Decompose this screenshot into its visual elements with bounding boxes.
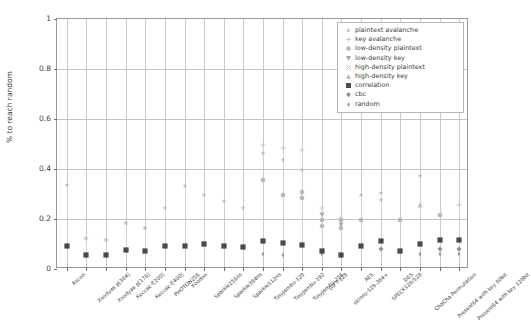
data-stem [204, 195, 205, 244]
legend-label: key avalanche [355, 35, 401, 44]
legend-item[interactable]: low-density key [341, 54, 458, 63]
y-tick-label: 1 [46, 14, 51, 23]
y-gridline [57, 119, 467, 120]
plot-area: plaintext avalanchekey avalanchelow-dens… [56, 18, 468, 268]
data-stem [67, 185, 68, 246]
y-axis-ticks: 00.20.40.60.81 [0, 18, 51, 268]
data-stem [86, 238, 87, 254]
legend-label: low-density key [355, 54, 405, 63]
legend-label: low-density plaintext [355, 44, 422, 53]
x-tick-label: Ascon [70, 271, 86, 286]
data-stem [420, 176, 421, 254]
data-stem [341, 218, 342, 256]
legend-item[interactable]: low-density plaintext [341, 44, 458, 53]
data-stem [440, 215, 441, 255]
y-tick-label: 0 [46, 264, 51, 273]
x-gridline [86, 19, 87, 267]
data-stem [243, 208, 244, 247]
y-tick-mark [54, 19, 58, 20]
x-icon [341, 63, 355, 72]
data-stem [263, 145, 264, 253]
y-tick-mark [54, 169, 58, 170]
y-tick-mark [54, 119, 58, 120]
legend-label: plaintext avalanche [355, 26, 418, 35]
data-stem [361, 195, 362, 246]
legend-item[interactable]: cbc [341, 90, 458, 99]
chart-legend: plaintext avalanchekey avalanchelow-dens… [337, 22, 464, 113]
x-tick-label: Xoodyak p[384] [97, 271, 132, 303]
y-tick-mark [54, 219, 58, 220]
data-stem [400, 220, 401, 252]
data-stem [165, 208, 166, 246]
hexagon-icon [341, 44, 355, 53]
y-tick-label: 0.6 [39, 114, 51, 123]
star-icon [341, 26, 355, 35]
square-icon [341, 81, 355, 90]
triangle-up-icon [341, 72, 355, 81]
data-stem [283, 148, 284, 255]
data-stem [126, 223, 127, 251]
y-tick-label: 0.4 [39, 164, 51, 173]
legend-label: correlation [355, 81, 389, 90]
data-stem [322, 208, 323, 254]
data-stem [459, 205, 460, 254]
x-axis-ticks: AsconXoodyak p[384]Xoodyak p[176]Keccak-… [56, 270, 468, 324]
y-gridline [57, 219, 467, 220]
diamond-icon [341, 90, 355, 99]
legend-item[interactable]: high-density plaintext [341, 63, 458, 72]
x-gridline [106, 19, 107, 267]
legend-item[interactable]: plaintext avalanche [341, 26, 458, 35]
legend-item[interactable]: correlation [341, 81, 458, 90]
y-tick-label: 0.2 [39, 214, 51, 223]
data-stem [302, 150, 303, 244]
y-tick-label: 0.8 [39, 64, 51, 73]
legend-item[interactable]: random [341, 100, 458, 109]
legend-label: cbc [355, 90, 366, 99]
data-stem [381, 193, 382, 250]
legend-label: high-density key [355, 72, 408, 81]
y-gridline [57, 169, 467, 170]
y-tick-mark [54, 69, 58, 70]
data-stem [224, 201, 225, 246]
data-stem [185, 186, 186, 246]
legend-label: random [355, 100, 380, 109]
legend-item[interactable]: high-density key [341, 72, 458, 81]
data-stem [106, 240, 107, 256]
data-stem [145, 228, 146, 251]
legend-item[interactable]: key avalanche [341, 35, 458, 44]
plus-icon [341, 35, 355, 44]
legend-label: high-density plaintext [355, 63, 425, 72]
triangle-down-icon [341, 54, 355, 63]
thin-diamond-icon [341, 100, 355, 109]
